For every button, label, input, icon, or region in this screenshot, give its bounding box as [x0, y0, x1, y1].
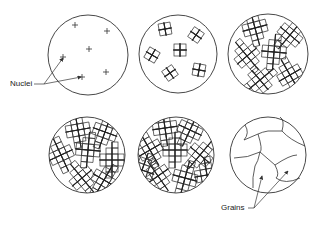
solidification-diagram	[0, 0, 320, 225]
stage-2-growth	[139, 15, 217, 93]
stage-1-nuclei	[48, 15, 128, 95]
stage-4-impinging	[42, 110, 125, 202]
nuclei-label: Nuclei	[10, 79, 32, 88]
stage-6-grains	[230, 117, 306, 193]
nuclei-pointer	[34, 58, 81, 84]
grains-label: Grains	[221, 203, 245, 212]
stage-3-dendrites	[225, 7, 311, 101]
stage-5-near-complete	[124, 108, 223, 199]
grains-pointer	[248, 171, 288, 208]
